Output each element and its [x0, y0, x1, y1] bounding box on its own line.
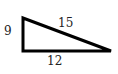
horizontal-leg-label: 12: [47, 54, 62, 68]
hypotenuse-label: 15: [58, 16, 73, 30]
vertical-leg-label: 9: [4, 24, 12, 38]
right-triangle-diagram: 9 15 12: [0, 0, 118, 74]
